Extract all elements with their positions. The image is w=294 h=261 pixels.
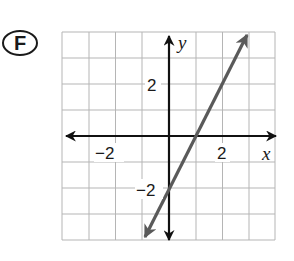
y-tick-label-neg2: −2 [136,181,155,200]
y-tick-label-2: 2 [147,76,156,95]
y-axis-label: y [176,32,187,53]
x-tick-label-2: 2 [217,144,226,163]
coordinate-graph: y x 2 −2 −2 2 [0,0,294,261]
x-tick-label-neg2: −2 [95,144,114,163]
x-axis-label: x [261,143,271,164]
